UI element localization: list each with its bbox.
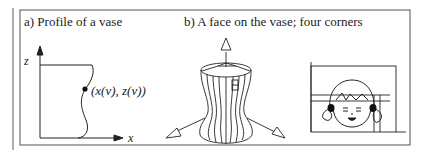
x-axis-label: x	[128, 131, 133, 146]
left-hair-tie	[328, 104, 335, 112]
panel-a-title: a) Profile of a vase	[24, 14, 122, 30]
panel-b-title: b) A face on the vase; four corners	[184, 14, 363, 30]
right-hair-tie	[370, 104, 377, 112]
z-axis-label: z	[24, 54, 29, 69]
girl-face-drawing	[323, 80, 382, 127]
vase-3d	[166, 38, 285, 144]
point-label: (x(v), z(v))	[91, 83, 146, 99]
profile-point-marker	[82, 86, 87, 91]
z-axis-arrow-icon	[37, 46, 43, 55]
figure: a) Profile of a vase b) A face on the va…	[0, 0, 427, 156]
vase-profile	[40, 65, 93, 138]
x-axis-arrow-icon	[114, 135, 123, 141]
